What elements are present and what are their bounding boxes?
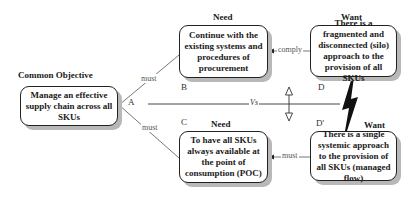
want-d-prime-box: There is a single systemic approach to t… (310, 131, 397, 181)
common-objective-box: Manage an effective supply chain across … (20, 86, 118, 126)
letter-b: B (181, 82, 187, 92)
need-c-box: To have all SKUs always available at the… (179, 131, 268, 183)
letter-a: A (128, 97, 135, 107)
need-c-heading: Need (211, 119, 231, 129)
comply-label: comply (277, 45, 303, 54)
want-d-box: There is a fragmented and disconnected (… (310, 25, 397, 77)
need-b-box: Continue with the existing systems and p… (179, 25, 268, 78)
must-label-dprime-c: must (281, 151, 299, 160)
letter-d: D (318, 82, 325, 92)
need-b-heading: Need (213, 12, 233, 22)
must-label-ab: must (140, 74, 158, 83)
versus-label: Vs (249, 98, 259, 107)
lightning-conflict-icon (342, 77, 358, 131)
letter-d-prime: D' (316, 118, 324, 128)
common-objective-heading: Common Objective (18, 70, 93, 80)
must-label-ac: must (141, 123, 159, 132)
letter-c: C (181, 117, 187, 127)
